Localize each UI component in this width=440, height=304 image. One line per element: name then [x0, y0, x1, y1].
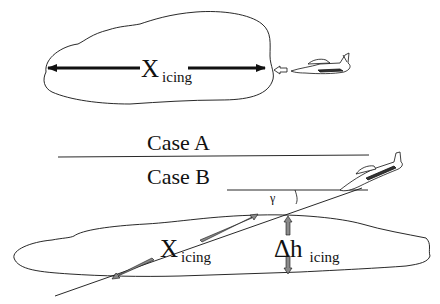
flight-direction-arrow-icon: [274, 66, 287, 74]
icing-diagram-canvas: [0, 0, 440, 304]
case-b-aircraft-icon: [340, 152, 402, 191]
case-b-icing-cloud: [14, 215, 430, 277]
gamma-angle-arc: [295, 190, 297, 204]
case-a-label: Case A: [147, 132, 210, 154]
case-b-height-subscript: icing: [310, 249, 340, 265]
case-a-aircraft-icon: [291, 53, 350, 74]
case-separator-line: [58, 155, 369, 157]
case-b-label: Case B: [147, 166, 210, 188]
case-b-distance-symbol: X: [160, 235, 178, 262]
flight-path-angle-label: γ: [270, 192, 275, 204]
case-b-height-label: Δhicing: [274, 236, 340, 261]
case-b-distance-subscript: icing: [181, 249, 211, 265]
case-b-distance-label: Xicing: [160, 236, 211, 261]
case-a-distance-label: Xicing: [141, 56, 192, 81]
case-a-distance-subscript: icing: [162, 69, 192, 85]
case-a-distance-symbol: X: [141, 55, 159, 82]
case-b-height-symbol: Δh: [274, 235, 303, 262]
